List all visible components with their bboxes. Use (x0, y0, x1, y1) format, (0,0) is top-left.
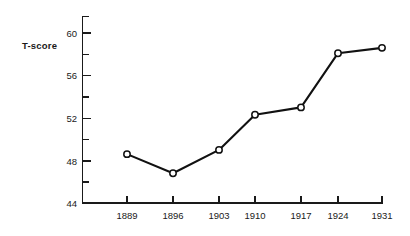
data-point-marker (298, 104, 304, 110)
x-tick-label-1889: 1889 (116, 210, 137, 221)
y-tick-label-56: 56 (66, 70, 77, 81)
data-point-marker (170, 170, 176, 176)
data-point-marker (379, 45, 385, 51)
data-point-marker (252, 112, 258, 118)
y-tick-label-44: 44 (66, 198, 77, 209)
data-point-marker (124, 151, 130, 157)
x-tick-label-1910: 1910 (244, 210, 265, 221)
x-tick-label-1917: 1917 (290, 210, 311, 221)
x-tick-label-1931: 1931 (371, 210, 392, 221)
x-tick-label-1896: 1896 (162, 210, 183, 221)
x-tick-label-1903: 1903 (208, 210, 229, 221)
chart-background (0, 0, 410, 236)
line-chart-figure: 60 56 52 48 44 T-score 1889 1896 1903 19… (0, 0, 410, 236)
y-tick-label-52: 52 (66, 113, 77, 124)
x-tick-label-1924: 1924 (327, 210, 348, 221)
data-point-marker (216, 147, 222, 153)
chart-plot-area: 60 56 52 48 44 T-score 1889 1896 1903 19… (0, 0, 410, 236)
data-point-marker (335, 50, 341, 56)
y-tick-label-48: 48 (66, 156, 77, 167)
y-tick-label-60: 60 (66, 28, 77, 39)
y-axis-title: T-score (22, 40, 57, 51)
